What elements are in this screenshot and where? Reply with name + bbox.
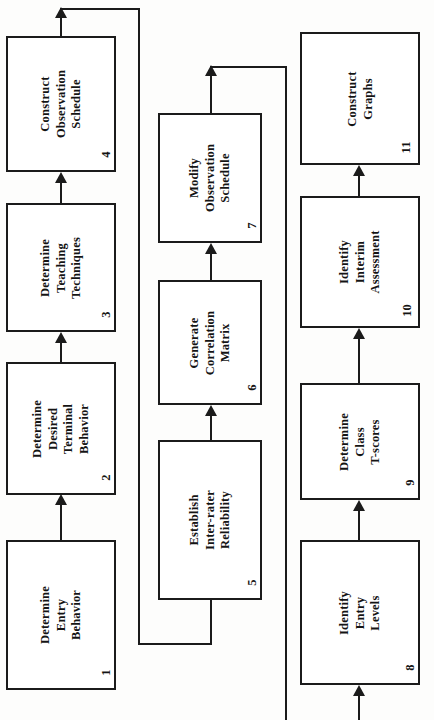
flowchart-canvas: ConstructObservationSchedule 4 Determine… [0, 0, 434, 720]
node-number-6: 6 [244, 384, 259, 390]
process-node-4[interactable]: ConstructObservationSchedule 4 [6, 36, 116, 172]
process-node-9[interactable]: DetermineClassT-scores 9 [300, 383, 420, 500]
node-number-7: 7 [244, 222, 259, 228]
edge-7-to-8-top-run [210, 66, 287, 68]
node-label-11: ConstructGraphs [345, 71, 376, 126]
edge-7-to-8-shaft [210, 76, 212, 113]
node-label-2: DetermineDesiredTerminalBehavior [30, 399, 92, 457]
node-label-1: DetermineEntryBehavior [38, 586, 85, 644]
edge-8-to-9-shaft [358, 509, 360, 540]
node-number-5: 5 [244, 579, 259, 585]
edge-3-to-4-arrowhead [55, 172, 67, 183]
edge-4-to-5-shaft [60, 18, 62, 36]
node-label-5: EstablishInter-raterReliability [187, 490, 234, 550]
edge-10-to-11-shaft [358, 174, 360, 196]
node-number-8: 8 [402, 664, 417, 670]
node-label-10: IdentifyInterimAssessment [337, 230, 384, 293]
process-node-2[interactable]: DetermineDesiredTerminalBehavior 2 [6, 362, 116, 495]
process-node-11[interactable]: ConstructGraphs 11 [300, 32, 420, 165]
edge-1-to-2-arrowhead [55, 494, 67, 505]
edge-5-to-6-shaft [210, 414, 212, 440]
edge-4-to-5-top-run [60, 8, 140, 10]
process-node-8[interactable]: IdentifyEntryLevels 8 [300, 540, 420, 685]
process-node-1[interactable]: DetermineEntryBehavior 1 [6, 540, 116, 690]
edge-9-to-10-arrowhead [353, 328, 365, 339]
node-label-8: IdentifyEntryLevels [337, 591, 384, 635]
edge-into-8-shaft [358, 694, 360, 720]
edge-6-to-7-arrowhead [205, 243, 217, 254]
edge-8-to-9-arrowhead [353, 500, 365, 511]
node-number-11: 11 [400, 142, 415, 154]
node-label-4: ConstructObservationSchedule [38, 70, 85, 138]
edge-5-to-6-arrowhead [205, 405, 217, 416]
edge-4-to-5-entry-run [210, 600, 212, 645]
node-number-10: 10 [399, 304, 414, 317]
edge-10-to-11-arrowhead [353, 165, 365, 176]
process-node-6[interactable]: GenerateCorrelationMatrix 6 [158, 280, 262, 405]
edge-7-to-8-vertical-run [285, 66, 287, 720]
edge-into-8-arrowhead [353, 685, 365, 696]
process-node-7[interactable]: ModifyObservationSchedule 7 [158, 113, 262, 243]
edge-4-to-5-bottom-run [138, 643, 212, 645]
node-number-4: 4 [98, 151, 113, 157]
node-label-3: DetermineTeachingTechniques [38, 237, 85, 299]
node-label-9: DetermineClassT-scores [337, 412, 384, 470]
edge-6-to-7-shaft [210, 252, 212, 280]
node-label-6: GenerateCorrelationMatrix [187, 310, 234, 374]
node-number-1: 1 [98, 669, 113, 675]
edge-2-to-3-arrowhead [55, 332, 67, 343]
node-number-3: 3 [98, 311, 113, 317]
edge-4-to-5-vertical-run [138, 8, 140, 645]
process-node-3[interactable]: DetermineTeachingTechniques 3 [6, 203, 116, 332]
node-number-2: 2 [98, 474, 113, 480]
edge-1-to-2-shaft [60, 503, 62, 540]
edge-3-to-4-shaft [60, 181, 62, 203]
node-number-9: 9 [402, 479, 417, 485]
process-node-10[interactable]: IdentifyInterimAssessment 10 [300, 196, 420, 328]
process-node-5[interactable]: EstablishInter-raterReliability 5 [158, 440, 262, 600]
edge-2-to-3-shaft [60, 341, 62, 362]
edge-9-to-10-shaft [358, 337, 360, 383]
node-label-7: ModifyObservationSchedule [187, 144, 234, 212]
